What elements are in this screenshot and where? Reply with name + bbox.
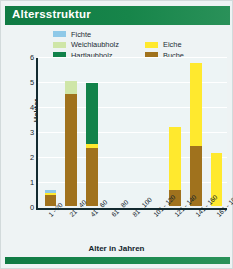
y-axis-tick-label: 1 bbox=[30, 178, 34, 187]
y-axis-tick-label: 0 bbox=[30, 203, 34, 212]
chart-plot-wrapper: Hektar 0123456 bbox=[15, 58, 227, 210]
y-axis-tick-label: 3 bbox=[30, 128, 34, 137]
legend-item-weichlaubholz: Weichlaubholz bbox=[53, 40, 119, 51]
bar-group bbox=[165, 58, 186, 206]
stacked-bar bbox=[65, 81, 77, 206]
chart-axis-area: 0123456 bbox=[36, 58, 227, 210]
bar-group bbox=[61, 58, 82, 206]
bar-series-container bbox=[40, 58, 227, 206]
y-axis-tick-label: 2 bbox=[30, 153, 34, 162]
legend-swatch-eiche bbox=[145, 42, 158, 48]
x-axis-title: Alter in Jahren bbox=[1, 244, 232, 253]
stacked-bar bbox=[190, 63, 202, 206]
legend-label-weichlaubholz: Weichlaubholz bbox=[71, 40, 119, 49]
bar-group bbox=[144, 58, 165, 206]
bar-segment bbox=[169, 127, 181, 190]
bar-group bbox=[102, 58, 123, 206]
bar-segment bbox=[86, 83, 98, 143]
bar-segment bbox=[65, 81, 77, 93]
bar-group bbox=[82, 58, 103, 206]
bar-group bbox=[206, 58, 227, 206]
legend-swatch-weichlaubholz bbox=[53, 42, 66, 48]
bar-group bbox=[123, 58, 144, 206]
bar-group bbox=[185, 58, 206, 206]
card-footer-band bbox=[5, 257, 230, 264]
legend-swatch-fichte bbox=[53, 31, 66, 37]
y-axis-tick-label: 4 bbox=[30, 103, 34, 112]
y-axis-tick-label: 5 bbox=[30, 78, 34, 87]
page-title: Altersstruktur bbox=[12, 8, 91, 20]
y-axis-tick-label: 6 bbox=[30, 53, 34, 62]
bar-segment bbox=[86, 148, 98, 206]
bar-segment bbox=[190, 63, 202, 146]
legend-item-fichte: Fichte bbox=[53, 29, 119, 40]
bar-group bbox=[40, 58, 61, 206]
legend-item-eiche: Eiche bbox=[145, 40, 184, 51]
bar-segment bbox=[65, 94, 77, 206]
plot-area: 0123456 bbox=[36, 58, 227, 210]
legend-label-eiche: Eiche bbox=[163, 40, 182, 49]
x-axis-tick-labels: 1 - 2021 - 4041 - 6061 - 8081 - 100101 -… bbox=[38, 213, 227, 245]
altersstruktur-chart-card: Altersstruktur Fichte Weichlaubholz Hart… bbox=[0, 0, 233, 269]
stacked-bar bbox=[86, 83, 98, 206]
legend-label-fichte: Fichte bbox=[71, 30, 91, 39]
legend-column-1: Fichte Weichlaubholz Hartlaubholz bbox=[53, 29, 119, 61]
card-header: Altersstruktur bbox=[5, 6, 230, 25]
